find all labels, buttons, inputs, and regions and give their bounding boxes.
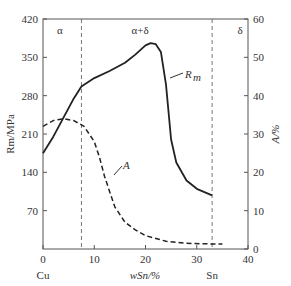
region-label: δ (237, 24, 242, 36)
y-right-tick-label: 30 (253, 128, 265, 140)
y-right-tick-label: 0 (253, 243, 259, 255)
axes-frame (43, 19, 248, 249)
x-tick-label: 10 (89, 253, 101, 265)
series-A (43, 119, 222, 244)
chart: 010203040701402102803504200102030405060α… (0, 0, 291, 286)
y-left-tick-label: 350 (22, 51, 39, 63)
x-tick-label: 0 (40, 253, 46, 265)
region-label: α (57, 24, 63, 36)
y-right-tick-label: 10 (253, 205, 265, 217)
y-left-tick-label: 420 (22, 13, 39, 25)
label-A: A (122, 159, 130, 171)
label-Rm: R (184, 68, 192, 80)
y-right-tick-label: 40 (253, 90, 265, 102)
x-tick-label: 30 (191, 253, 203, 265)
y-right-tick-label: 20 (253, 166, 265, 178)
y-left-tick-label: 280 (22, 90, 39, 102)
region-label: α+δ (131, 24, 148, 36)
y-right-tick-label: 60 (253, 13, 265, 25)
x-tick-label: 20 (140, 253, 152, 265)
svg-text:m: m (193, 71, 201, 83)
y-left-label: Rm/MPa (4, 114, 16, 154)
y-left-tick-label: 70 (27, 205, 39, 217)
x-axis-label: wSn/% (130, 269, 161, 281)
plot-area: 010203040701402102803504200102030405060α… (0, 0, 291, 286)
y-right-label: A/% (269, 125, 281, 145)
sn-label: Sn (206, 269, 218, 281)
y-right-tick-label: 50 (253, 51, 265, 63)
cu-label: Cu (37, 269, 50, 281)
y-left-tick-label: 140 (22, 166, 39, 178)
y-left-tick-label: 210 (22, 128, 39, 140)
